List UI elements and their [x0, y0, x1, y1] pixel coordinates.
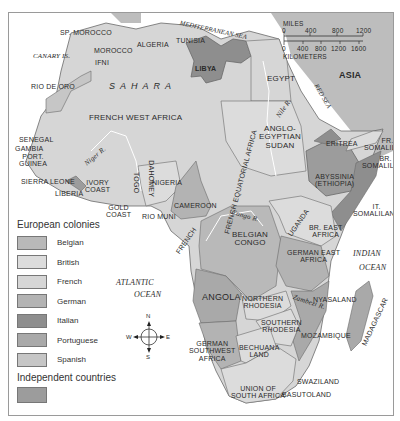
scale-km-400: 400 [297, 46, 308, 53]
legend-independent-title: Independent countries [17, 372, 127, 383]
scale-km-label: KILOMETERS [283, 54, 327, 61]
label-morocco: MOROCCO [94, 47, 133, 54]
label-bechuanaland: BECHUANA LAND [239, 344, 280, 359]
label-fr-somaliland: FR. SOMALILAND [364, 137, 394, 152]
label-atlantic-ocean: OCEAN [134, 291, 161, 299]
label-br-somaliland: BR. SOMALILAND [362, 155, 394, 170]
legend-label-belgian: Belgian [57, 238, 84, 247]
compass-e: E [166, 334, 170, 340]
scale-mile-400: 400 [305, 28, 316, 35]
legend-swatch-french [17, 275, 47, 289]
label-union-of-south-africa: UNION OF SOUTH AFRICA [231, 385, 285, 400]
label-abyssinia: ABYSSINIA (ETHIOPIA) [315, 173, 354, 188]
compass-n: N [146, 313, 151, 319]
label-gold-coast: GOLD COAST [106, 204, 131, 219]
scale-mile-1200: 1200 [356, 28, 371, 35]
label-northern-rhodesia: NORTHERN RHODESIA [242, 295, 283, 310]
label-swaziland: SWAZILAND [297, 378, 339, 385]
legend-swatch-british [17, 255, 47, 269]
label-indian-ocean: OCEAN [359, 264, 386, 272]
label-it-somaliland: IT. SOMALILAND [353, 203, 394, 218]
compass-rose-icon [133, 321, 165, 353]
label-basutoland: BASUTOLAND [282, 391, 331, 398]
legend-colonies-title: European colonies [17, 219, 127, 230]
legend-swatch-italian [17, 314, 47, 328]
label-togo: TOGO [133, 172, 140, 193]
legend-item-french: French [17, 272, 127, 292]
label-algeria: ALGERIA [137, 41, 169, 48]
label-rio-muni: RIO MUNI [142, 213, 176, 220]
legend: European colonies Belgian British French… [17, 219, 127, 405]
legend-label-portuguese: Portuguese [57, 336, 98, 345]
label-ivory-coast: IVORY COAST [85, 179, 110, 194]
legend-label-french: French [57, 277, 82, 286]
label-rio-de-oro: RIO DE ORO [31, 83, 75, 90]
label-sp-morocco: SP. MOROCCO [60, 29, 112, 36]
label-br-east-africa: BR. EAST AFRICA [309, 224, 343, 239]
label-anglo-egyptian-sudan: ANGLO- EGYPTIAN SUDAN [259, 125, 301, 150]
legend-label-spanish: Spanish [57, 355, 86, 364]
label-port-guinea: PORT. GUINEA [19, 153, 47, 168]
legend-item-portuguese: Portuguese [17, 331, 127, 351]
scale-mile-0: 0 [282, 28, 286, 35]
compass-s: S [146, 354, 150, 360]
legend-item-spanish: Spanish [17, 350, 127, 370]
legend-swatch-spanish [17, 353, 47, 367]
label-asia: ASIA [339, 71, 361, 80]
legend-item-italian: Italian [17, 311, 127, 331]
label-southern-rhodesia: SOUTHERN RHODESIA [261, 319, 302, 334]
legend-item-independent [17, 386, 127, 406]
label-german-east-africa: GERMAN EAST AFRICA [287, 249, 340, 264]
label-tunisia: TUNISIA [176, 37, 205, 44]
scale-km-0: 0 [282, 46, 286, 53]
label-senegal: SENEGAL [19, 136, 53, 143]
label-mozambique: MOZAMBIQUE [301, 332, 351, 339]
map-frame: SP. MOROCCO MEDITERRANEAN SEA ALGERIA TU… [8, 12, 394, 416]
label-cameroon: CAMEROON [174, 202, 217, 209]
scale-km-1600: 1600 [351, 46, 366, 53]
legend-swatch-independent [17, 387, 47, 403]
label-french-west-africa: FRENCH WEST AFRICA [89, 114, 182, 122]
label-liberia: LIBERIA [55, 190, 83, 197]
legend-label-italian: Italian [57, 316, 78, 325]
region-europe-south [111, 13, 141, 23]
legend-swatch-belgian [17, 236, 47, 250]
scale-miles-label: MILES [283, 21, 304, 28]
legend-label-british: British [57, 258, 79, 267]
legend-item-german: German [17, 292, 127, 312]
label-angola: ANGOLA [202, 293, 241, 302]
scale-mile-800: 800 [332, 28, 343, 35]
label-egypt: EGYPT [267, 75, 295, 83]
legend-swatch-german [17, 294, 47, 308]
label-sahara: SAHARA [109, 82, 176, 91]
label-sierra-leone: SIERRA LEONE [21, 178, 75, 185]
legend-item-belgian: Belgian [17, 233, 127, 253]
label-nyasaland: NYASALAND [313, 296, 357, 303]
label-belgian-congo: BELGIAN CONGO [232, 231, 268, 248]
label-libya: LIBYA [195, 65, 216, 72]
legend-item-british: British [17, 253, 127, 273]
legend-label-german: German [57, 297, 86, 306]
label-eritrea: ERITREA [326, 140, 358, 147]
label-german-southwest-africa: GERMAN SOUTHWEST AFRICA [189, 340, 236, 362]
scale-km-1200: 1200 [331, 46, 346, 53]
legend-swatch-portuguese [17, 333, 47, 347]
label-ifni: IFNI [95, 59, 109, 66]
label-canary: CANARY IS. [33, 53, 70, 60]
label-nigeria: NIGERIA [152, 179, 182, 186]
label-gambia: GAMBIA [15, 145, 43, 152]
label-indian: INDIAN [353, 250, 381, 258]
scale-km-800: 800 [315, 46, 326, 53]
